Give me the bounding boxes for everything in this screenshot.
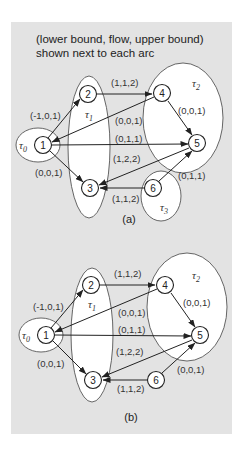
set-t3-ellipse: [141, 171, 181, 221]
node-4: 4: [157, 277, 174, 294]
arc-label-4-5: (0,0,1): [178, 105, 205, 116]
node-3: 3: [82, 180, 99, 197]
arc-label-4-5: (0,0,1): [183, 297, 210, 308]
set-t2-ellipse: [143, 63, 223, 173]
diagram-a-label: (a): [122, 213, 135, 225]
arc-label-2-4: (1,1,2): [111, 77, 138, 88]
svg-text:3: 3: [90, 375, 96, 386]
node-4: 4: [154, 85, 171, 102]
diagram-a: τ0 τ1 τ2 τ3 (-1,0,1) (1,1,2) (0,0,1) (0,…: [16, 63, 223, 225]
svg-text:3: 3: [87, 183, 93, 194]
node-3: 3: [85, 372, 102, 389]
diagram-b-label: (b): [124, 411, 137, 423]
svg-text:5: 5: [194, 138, 200, 149]
arc-label-1-3: (0,0,1): [35, 167, 62, 178]
arc-label-2-4: (1,1,2): [114, 268, 141, 279]
svg-text:1: 1: [40, 140, 46, 151]
arc-label-6-5: (0,0,1): [177, 364, 204, 375]
arc-label-4-1: (0,0,1): [115, 115, 142, 126]
arc-label-4-1: (0,0,1): [118, 307, 145, 318]
arc-label-5-3: (1,2,2): [116, 346, 143, 357]
svg-text:2: 2: [88, 280, 94, 291]
node-2: 2: [83, 277, 100, 294]
network-diagrams: τ0 τ1 τ2 τ3 (-1,0,1) (1,1,2) (0,0,1) (0,…: [0, 0, 239, 453]
svg-text:6: 6: [150, 183, 156, 194]
svg-text:2: 2: [85, 89, 91, 100]
node-2: 2: [80, 86, 97, 103]
arc-label-6-5: (0,1,1): [178, 170, 205, 181]
node-1: 1: [38, 327, 55, 344]
svg-text:5: 5: [197, 330, 203, 341]
arc-label-5-3: (1,2,2): [113, 153, 140, 164]
arc-label-6-3: (1,1,2): [117, 383, 144, 394]
arc-label-1-3: (0,0,1): [37, 358, 64, 369]
node-6: 6: [145, 180, 162, 197]
diagram-b: τ0 τ1 τ2 (-1,0,1) (1,1,2) (0,0,1) (0,1,1…: [19, 253, 227, 423]
svg-text:4: 4: [159, 88, 165, 99]
arc-label-1-5: (0,1,1): [118, 324, 145, 335]
node-5: 5: [192, 327, 209, 344]
arc-label-1-2: (-1,0,1): [30, 110, 61, 121]
arc-label-1-5: (0,1,1): [115, 133, 142, 144]
node-6: 6: [148, 372, 165, 389]
svg-text:4: 4: [162, 280, 168, 291]
arc-label-1-2: (-1,0,1): [33, 301, 64, 312]
arc-label-6-3: (1,1,2): [112, 193, 139, 204]
svg-text:6: 6: [153, 375, 159, 386]
svg-text:1: 1: [43, 330, 49, 341]
node-1: 1: [35, 137, 52, 154]
node-5: 5: [189, 135, 206, 152]
